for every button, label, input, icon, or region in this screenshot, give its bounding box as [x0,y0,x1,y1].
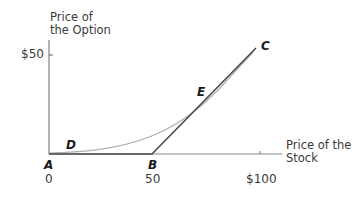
intrinsic-value-line [49,48,256,154]
point-label-c: C [261,39,270,53]
point-label-d: D [66,138,76,152]
point-label-e: E [197,85,205,99]
point-label-b: B [148,158,157,172]
point-label-a: A [44,158,53,172]
y-axis-title-line2: the Option [50,24,111,37]
x-axis-title-line2: Stock [286,152,318,165]
x-tick-label-100: $100 [246,173,277,186]
x-tick-label-0: 0 [45,173,53,186]
y-tick-label-50: $50 [21,48,44,61]
x-tick-label-50: 50 [145,173,160,186]
option-price-curve [49,52,253,153]
